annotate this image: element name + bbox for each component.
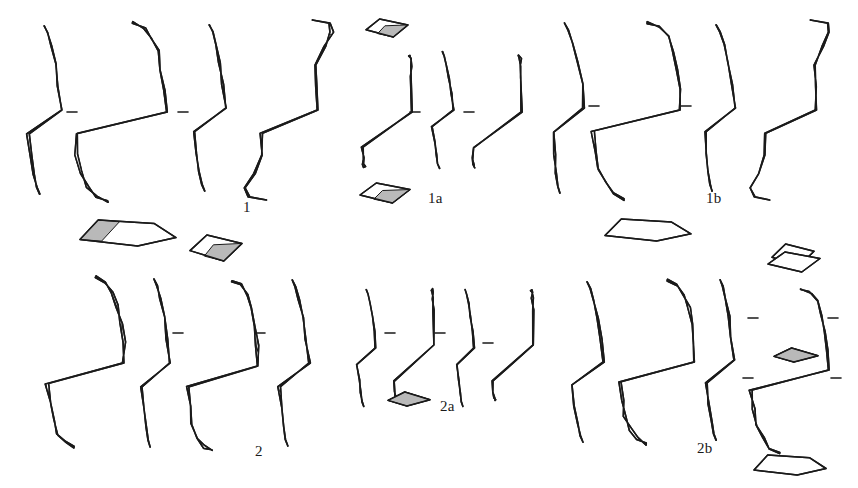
figure-label-2a: 2a	[440, 398, 455, 415]
specimen-1b-reverse-face	[747, 1, 830, 210]
figure-label-1a: 1a	[428, 190, 443, 207]
specimen-2-reverse-face	[183, 276, 260, 460]
specimen-2b-reverse-face	[746, 265, 839, 463]
figure-label-1: 1	[243, 199, 251, 216]
specimen-1a-right-profile	[429, 46, 454, 184]
specimen-1a-section-top	[366, 19, 408, 37]
specimen-2a-obverse-face	[355, 279, 376, 414]
specimen-2a-right-profile	[453, 285, 475, 422]
lithic-artwork-canvas	[0, 0, 858, 488]
specimen-1b-right-profile	[697, 2, 736, 191]
specimen-2b-section-bottom	[754, 455, 826, 475]
specimen-2a-reverse-face	[394, 275, 438, 407]
specimen-2-right-profile	[272, 251, 310, 448]
specimen-2a-section-b	[774, 348, 818, 362]
lithic-illustration-plate: 11a1b22a2b	[0, 0, 858, 488]
specimen-2b-left-profile	[564, 273, 604, 467]
specimen-1a-section-bottom	[360, 183, 410, 203]
specimen-2-obverse-face	[43, 276, 126, 460]
specimen-1-reverse-face	[244, 0, 341, 204]
specimen-2a-far-face	[492, 285, 535, 413]
specimen-1a-reverse-face	[472, 42, 523, 176]
specimen-1-left-profile	[21, 26, 62, 202]
specimen-1-section-a	[80, 220, 176, 246]
specimen-2b-right-profile	[704, 280, 737, 451]
figure-label-2: 2	[255, 443, 263, 460]
specimen-1-obverse-face	[64, 0, 167, 224]
specimen-1b-obverse-face	[582, 17, 687, 201]
specimen-2-left-profile	[140, 279, 170, 450]
figure-label-1b: 1b	[706, 190, 722, 207]
specimen-1b-section-a	[605, 219, 691, 241]
specimen-1a-obverse-face	[358, 40, 421, 170]
specimen-1-section-b	[190, 235, 242, 261]
specimen-1b-left-profile	[546, 6, 585, 199]
figure-label-2b: 2b	[697, 440, 713, 457]
specimen-1-right-profile	[193, 9, 226, 218]
specimen-2b-obverse-face	[615, 277, 704, 445]
